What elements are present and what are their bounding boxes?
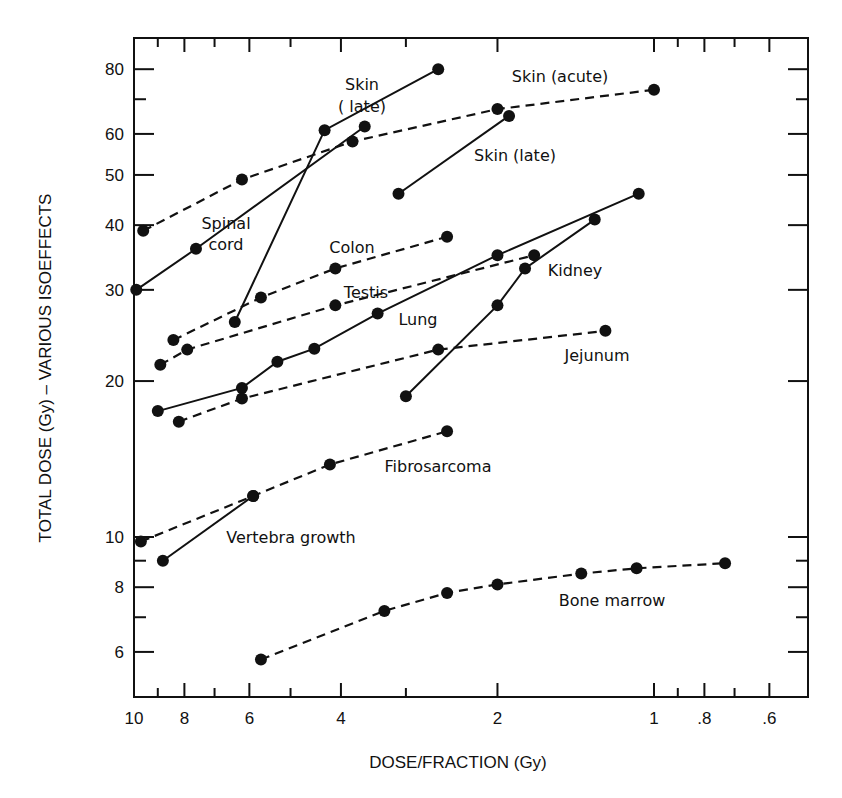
series-label: Colon	[329, 238, 374, 257]
series-label: Spinal	[201, 214, 250, 233]
data-point	[378, 605, 390, 617]
y-tick-label: 40	[105, 216, 124, 235]
series-line	[179, 331, 606, 422]
data-series	[130, 63, 731, 665]
y-tick-label: 60	[105, 125, 124, 144]
y-tick-label: 80	[105, 60, 124, 79]
y-tick-label: 8	[115, 578, 124, 597]
data-point	[255, 654, 267, 666]
data-point	[503, 110, 515, 122]
data-point	[154, 359, 166, 371]
x-tick-label: .6	[762, 709, 776, 728]
series-line	[261, 563, 725, 659]
series-label: Bone marrow	[559, 591, 666, 610]
data-point	[441, 587, 453, 599]
x-tick-label: .8	[697, 709, 711, 728]
data-point	[392, 188, 404, 200]
data-point	[491, 103, 503, 115]
data-point	[167, 334, 179, 346]
y-tick-label: 20	[105, 372, 124, 391]
series-label: Skin	[345, 75, 379, 94]
plot-frame	[134, 38, 808, 697]
series-line	[143, 90, 654, 231]
series-label: Skin (late)	[474, 146, 556, 165]
data-point	[236, 393, 248, 405]
data-point	[255, 291, 267, 303]
data-point	[648, 84, 660, 96]
data-point	[173, 416, 185, 428]
series-labels: Skin( late)Skin (acute)Skin (late)Spinal…	[201, 67, 665, 610]
x-axis-title: DOSE/FRACTION (Gy)	[369, 753, 547, 772]
data-point	[491, 299, 503, 311]
series-label: Skin (acute)	[512, 67, 608, 86]
x-tick-label: 10	[125, 709, 144, 728]
data-point	[319, 124, 331, 136]
data-point	[400, 390, 412, 402]
data-point	[631, 562, 643, 574]
series-testis	[154, 249, 540, 371]
data-point	[441, 425, 453, 437]
series-jejunum	[173, 325, 612, 428]
series-line	[141, 431, 447, 541]
data-point	[135, 536, 147, 548]
data-point	[589, 214, 601, 226]
axis-tick-labels: 1086421.8.68060504030201086	[105, 60, 776, 728]
data-point	[519, 262, 531, 274]
series-label: Jejunum	[563, 346, 629, 365]
data-point	[575, 568, 587, 580]
data-point	[130, 284, 142, 296]
data-point	[236, 382, 248, 394]
axis-ticks	[134, 38, 808, 697]
x-tick-label: 8	[180, 709, 189, 728]
series-label: Testis	[343, 283, 388, 302]
data-point	[324, 459, 336, 471]
series-bone-marrow	[255, 557, 731, 665]
series-label: ( late)	[338, 97, 386, 116]
y-axis-title: TOTAL DOSE (Gy) – VARIOUS ISOEFFECTS	[36, 194, 55, 543]
data-point	[441, 231, 453, 243]
x-tick-label: 4	[336, 709, 345, 728]
series-label: Lung	[398, 310, 437, 329]
data-point	[491, 249, 503, 261]
series-skin-late-	[229, 63, 444, 328]
x-tick-label: 6	[245, 709, 254, 728]
y-tick-label: 50	[105, 166, 124, 185]
x-tick-label: 2	[493, 709, 502, 728]
data-point	[229, 316, 241, 328]
data-point	[359, 121, 371, 133]
data-point	[137, 225, 149, 237]
data-point	[152, 405, 164, 417]
y-tick-label: 6	[115, 643, 124, 662]
data-point	[432, 63, 444, 75]
series-line	[235, 69, 438, 322]
series-label: Kidney	[548, 261, 603, 280]
data-point	[190, 243, 202, 255]
data-point	[247, 490, 259, 502]
series-label: Vertebra growth	[226, 528, 356, 547]
data-point	[157, 555, 169, 567]
data-point	[329, 299, 341, 311]
data-point	[719, 557, 731, 569]
series-label: Fibrosarcoma	[385, 457, 492, 476]
data-point	[633, 188, 645, 200]
plot-border	[134, 38, 808, 697]
series-line	[160, 255, 534, 365]
isoeffect-chart: 1086421.8.68060504030201086 Skin( late)S…	[0, 0, 842, 798]
x-tick-label: 1	[649, 709, 658, 728]
data-point	[236, 173, 248, 185]
data-point	[372, 308, 384, 320]
data-point	[329, 262, 341, 274]
y-tick-label: 30	[105, 281, 124, 300]
data-point	[308, 343, 320, 355]
y-tick-label: 10	[105, 528, 124, 547]
data-point	[491, 578, 503, 590]
data-point	[599, 325, 611, 337]
series-label: cord	[208, 235, 243, 254]
data-point	[181, 344, 193, 356]
data-point	[432, 344, 444, 356]
data-point	[271, 356, 283, 368]
